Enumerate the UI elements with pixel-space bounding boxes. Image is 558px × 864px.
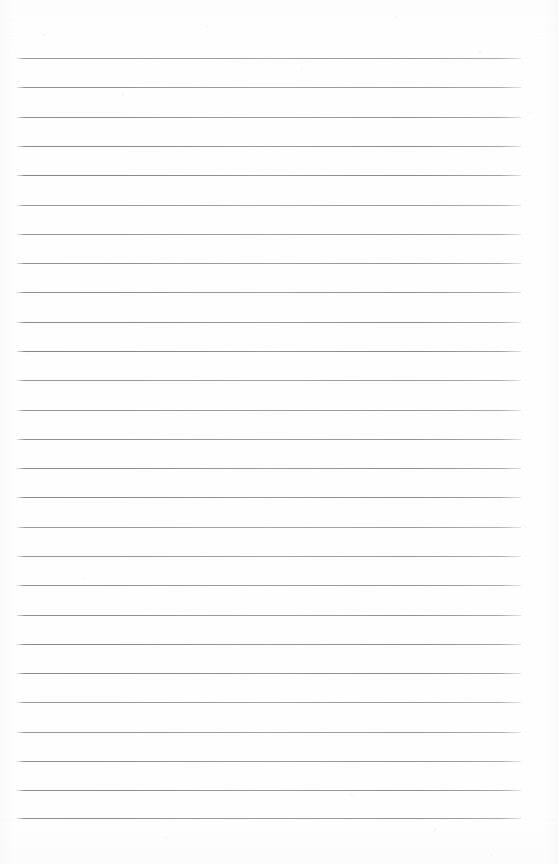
rule-line xyxy=(17,58,521,59)
rule-line xyxy=(17,556,521,557)
rule-line xyxy=(17,234,521,235)
rule-line xyxy=(17,702,521,703)
rule-line xyxy=(17,410,521,411)
rule-line xyxy=(17,292,521,293)
rule-line xyxy=(17,380,521,381)
rule-line xyxy=(17,322,521,323)
rule-line xyxy=(17,263,521,264)
rule-line xyxy=(17,87,521,88)
rule-line xyxy=(17,439,521,440)
rule-line xyxy=(17,644,521,645)
rule-line xyxy=(17,205,521,206)
rule-line xyxy=(17,732,521,733)
rule-line xyxy=(17,527,521,528)
rule-line xyxy=(17,790,521,791)
rule-line xyxy=(17,818,521,819)
rule-line xyxy=(17,585,521,586)
rule-line xyxy=(17,761,521,762)
rule-line xyxy=(17,351,521,352)
ruled-lines-layer xyxy=(0,0,558,864)
rule-line xyxy=(17,497,521,498)
rule-line xyxy=(17,175,521,176)
rule-line xyxy=(17,146,521,147)
rule-line xyxy=(17,468,521,469)
rule-line xyxy=(17,117,521,118)
scanned-page xyxy=(0,0,558,864)
rule-line xyxy=(17,673,521,674)
rule-line xyxy=(17,615,521,616)
